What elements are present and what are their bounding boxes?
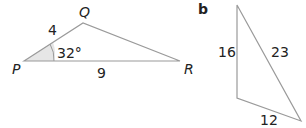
part-b-label: b (198, 1, 208, 17)
triangles-diagram: P Q R 4 9 32° b 16 23 12 (0, 0, 306, 128)
vertex-q-label: Q (79, 4, 90, 20)
side-pr-label: 9 (97, 65, 106, 81)
vertex-p-label: P (12, 61, 21, 77)
triangle-b (237, 5, 301, 121)
side-bottom-label: 12 (260, 112, 278, 128)
vertex-r-label: R (184, 61, 194, 77)
side-hypotenuse-label: 23 (271, 44, 289, 60)
side-left-label: 16 (218, 44, 236, 60)
side-pq-label: 4 (48, 22, 57, 38)
angle-p-label: 32° (57, 45, 82, 61)
